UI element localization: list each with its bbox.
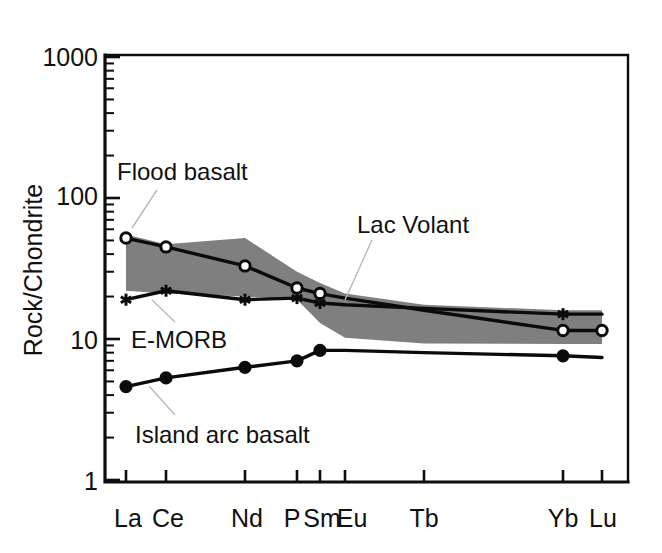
data-point-marker (121, 233, 131, 243)
y-tick-label-1000: 1000 (42, 43, 98, 71)
annotation-lac-volant: Lac Volant (357, 211, 469, 238)
x-tick-label-la: La (114, 504, 142, 532)
leader-line-flood-basalt (132, 190, 157, 228)
data-point-marker (291, 355, 302, 366)
series-line-island-arc-basalt (126, 350, 602, 386)
x-tick-label-ce: Ce (152, 504, 184, 532)
y-tick-label-1: 1 (84, 467, 98, 495)
y-axis-tick-labels: 1000 100 10 1 (42, 43, 98, 495)
x-axis-tick-labels: LaCeNdPSmEuTbYbLu (114, 504, 617, 532)
data-point-marker (239, 362, 250, 373)
data-point-marker (161, 242, 171, 252)
x-tick-label-lu: Lu (589, 504, 617, 532)
x-tick-label-tb: Tb (409, 504, 438, 532)
annotation-flood-basalt: Flood basalt (117, 158, 248, 185)
leader-line-e-morb (152, 300, 175, 322)
leader-line-lac-volant (345, 240, 372, 300)
annotations-group: Flood basalt Lac Volant E-MORB Island ar… (117, 158, 469, 448)
chart-canvas: 1000 100 10 1 Rock/Chondrite LaCeNdPSmEu… (0, 0, 662, 553)
data-point-marker (314, 345, 325, 356)
data-point-marker (240, 261, 250, 271)
y-tick-label-10: 10 (70, 326, 98, 354)
data-point-marker (160, 372, 171, 383)
x-axis-ticks (126, 470, 602, 482)
x-tick-label-p: P (284, 504, 301, 532)
x-tick-label-sm: Sm (303, 504, 341, 532)
annotation-e-morb: E-MORB (131, 326, 227, 353)
data-point-marker (558, 325, 568, 335)
x-tick-label-nd: Nd (231, 504, 263, 532)
y-axis-title: Rock/Chondrite (19, 184, 47, 356)
x-tick-label-yb: Yb (548, 504, 579, 532)
reo-spider-diagram-figure: 1000 100 10 1 Rock/Chondrite LaCeNdPSmEu… (0, 0, 662, 553)
x-tick-label-eu: Eu (337, 504, 368, 532)
y-tick-label-100: 100 (56, 182, 98, 210)
annotation-island-arc-basalt: Island arc basalt (135, 421, 310, 448)
data-point-marker (292, 283, 302, 293)
data-point-marker (557, 350, 568, 361)
leader-line-island-arc-basalt (149, 386, 175, 415)
data-point-marker (597, 325, 607, 335)
data-point-marker (120, 381, 131, 392)
y-axis-ticks (105, 57, 120, 480)
